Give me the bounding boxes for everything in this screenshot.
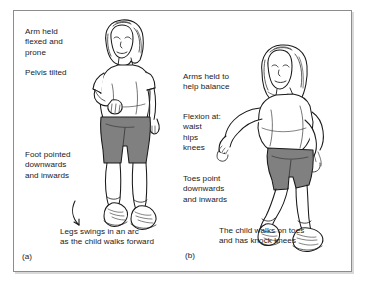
- caption-panel-a-summary: Legs swings in an arc as the child walks…: [60, 227, 154, 248]
- panel-label-a: (a): [22, 252, 32, 261]
- caption-panel-b-summary: The child walks on toes and has knock kn…: [219, 226, 304, 247]
- figure-root: Arm held flexed and prone Pelvis tilted …: [0, 0, 366, 290]
- annotation-pelvis-tilted: Pelvis tilted: [25, 68, 67, 78]
- annotation-arms-held-to-help-balance: Arms held to help balance: [183, 72, 230, 93]
- panel-label-b: (b): [185, 251, 195, 260]
- annotation-foot-pointed-downwards-and-inwards: Foot pointed downwards and inwards: [25, 150, 71, 181]
- annotation-flexion-at-waist-hips-knees: Flexion at: waist hips knees: [183, 112, 221, 154]
- annotation-arm-held-flexed-and-prone: Arm held flexed and prone: [25, 27, 63, 58]
- annotation-toes-point-downwards-and-inwards: Toes point downwards and inwards: [183, 174, 227, 205]
